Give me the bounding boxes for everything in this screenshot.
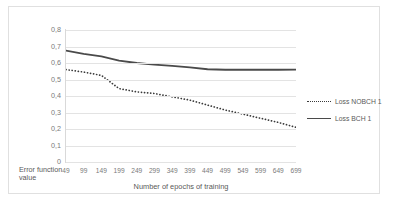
x-axis-tick-label: 199: [114, 167, 125, 174]
x-axis-tick-label: 349: [167, 167, 178, 174]
x-axis-tick-label: 399: [184, 167, 195, 174]
y-axis-tick-label: 0,4: [19, 92, 61, 99]
y-axis-tick-label: 0,6: [19, 59, 61, 66]
x-axis-tick-label: 299: [149, 167, 160, 174]
gridline: [66, 113, 296, 114]
y-axis-tick-label: 0,2: [19, 125, 61, 132]
x-axis-tick-label: 599: [255, 167, 266, 174]
legend-swatch-solid-icon: [307, 116, 331, 122]
plot-area: [66, 30, 296, 162]
series-line: [66, 51, 296, 70]
series-line: [66, 70, 296, 128]
gridline: [66, 80, 296, 81]
gridline: [66, 96, 296, 97]
x-axis-title: Number of epochs of training: [66, 183, 296, 191]
y-axis-tick-label: 0,5: [19, 76, 61, 83]
gridline: [66, 129, 296, 130]
x-axis-tick-label: 99: [80, 167, 87, 174]
x-axis-tick-labels: 4999149199249299349399449499549599649699: [66, 167, 296, 177]
x-axis-tick-label: 699: [290, 167, 301, 174]
y-axis-tick-label: 0,3: [19, 109, 61, 116]
chart-legend: Loss NOBCH 1Loss BCH 1: [307, 95, 385, 129]
gridline: [66, 47, 296, 48]
gridline: [66, 162, 296, 163]
y-axis-tick-labels: 0,80,70,60,50,40,30,20,10: [15, 30, 61, 162]
legend-item[interactable]: Loss BCH 1: [307, 112, 385, 125]
x-axis-tick-label: 49: [62, 167, 69, 174]
gridline: [66, 30, 296, 31]
y-axis-tick-label: 0,1: [19, 142, 61, 149]
legend-swatch-dotted-icon: [307, 99, 331, 105]
y-axis-tick-label: 0,8: [19, 26, 61, 33]
legend-item-label: Loss BCH 1: [335, 115, 371, 123]
x-axis-tick-label: 149: [96, 167, 107, 174]
x-axis-tick-label: 449: [202, 167, 213, 174]
x-axis-tick-label: 499: [220, 167, 231, 174]
x-axis-tick-label: 249: [131, 167, 142, 174]
gridline: [66, 146, 296, 147]
chart-container: 0,80,70,60,50,40,30,20,10 49991491992492…: [8, 6, 380, 194]
x-axis-tick-label: 649: [273, 167, 284, 174]
x-axis-tick-label: 549: [237, 167, 248, 174]
legend-item-label: Loss NOBCH 1: [335, 98, 381, 106]
y-axis-title: Error function value: [19, 166, 63, 183]
gridline: [66, 63, 296, 64]
y-axis-tick-label: 0,7: [19, 43, 61, 50]
legend-item[interactable]: Loss NOBCH 1: [307, 95, 385, 108]
